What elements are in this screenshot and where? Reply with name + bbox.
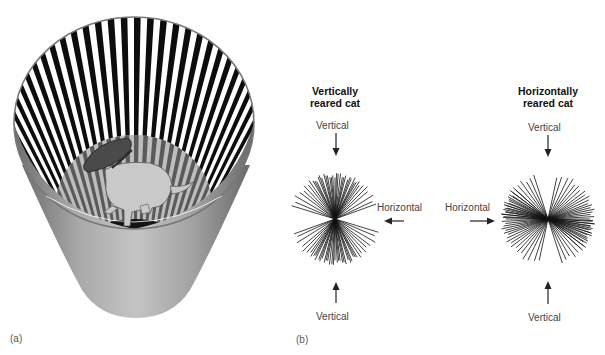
vertical-cat-orientation-plot [292,173,379,265]
cylinder-illustration [0,0,337,318]
horizontal-cat-orientation-plot [501,175,594,263]
horizontal-cat-bottom-label: Vertical [528,312,561,323]
horizontal-cat-top-label: Vertical [528,122,561,133]
figure-canvas [0,0,605,355]
vertical-cat-side-label: Horizontal [377,202,422,213]
title-line-2: reared cat [290,97,380,109]
horizontal-cat-title: Horizontally reared cat [498,85,598,109]
horizontal-cat-side-label: Horizontal [445,202,490,213]
vertical-cat-title: Vertically reared cat [290,85,380,109]
vertical-cat-bottom-label: Vertical [316,311,349,322]
vertical-cat-top-label: Vertical [316,120,349,131]
arrow-down-icon-horizontal-cat-top [545,135,552,157]
title-line-1: Vertically [290,85,380,97]
title-line-2: reared cat [498,97,598,109]
arrow-down-icon-vertical-cat-top [333,133,340,156]
title-line-1: Horizontally [498,85,598,97]
arrow-right-icon-horizontal-cat-side [470,218,495,225]
arrow-up-icon-vertical-cat-bottom [333,282,340,303]
arrow-up-icon-horizontal-cat-bottom [545,281,552,304]
panel-b-label: (b) [296,334,308,345]
arrow-left-icon-vertical-cat-side [384,218,404,225]
panel-a-label: (a) [10,333,22,344]
